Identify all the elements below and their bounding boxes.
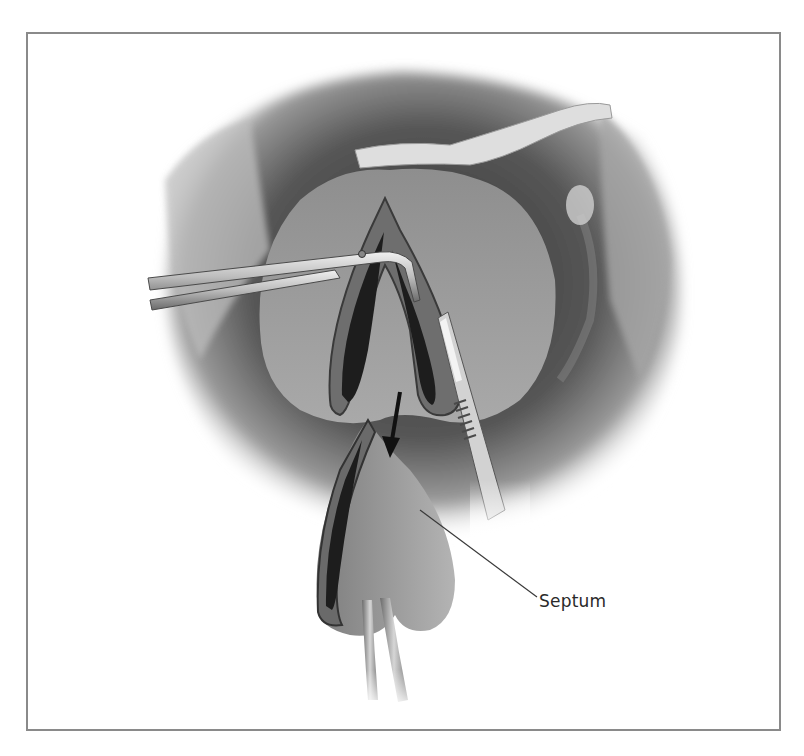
- septum-label: Septum: [539, 591, 606, 611]
- surgical-illustration: [0, 0, 804, 756]
